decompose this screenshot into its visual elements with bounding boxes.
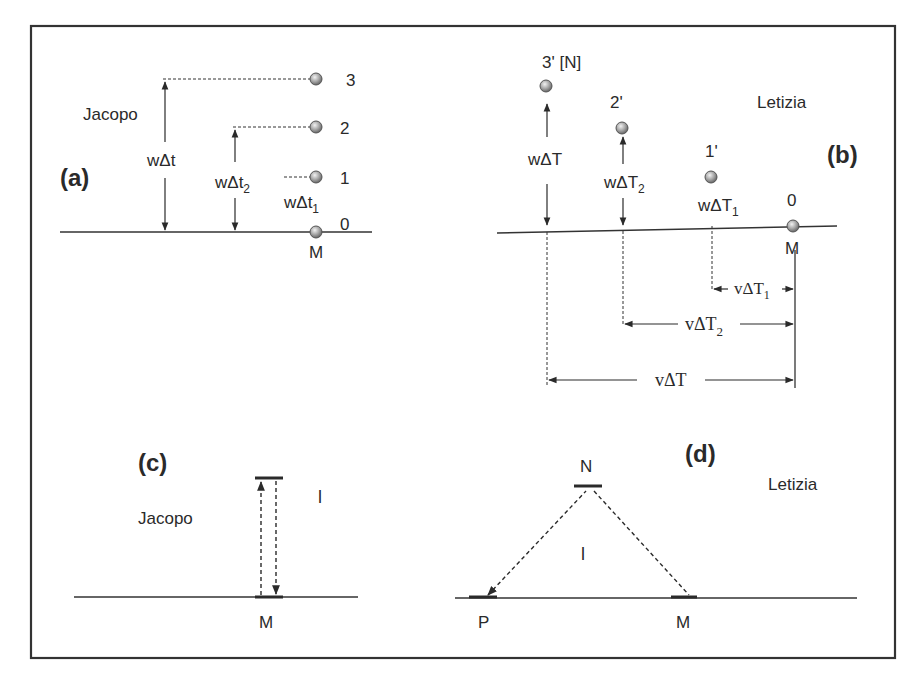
point-label-3prime: 3' [N] [542, 53, 581, 72]
panel-c: (c) Jacopo l M [74, 449, 358, 632]
v-interval-T1-label: wΔT1 [697, 196, 739, 219]
h-interval-T2-label: vΔT2 [685, 314, 723, 339]
sphere-2prime [616, 122, 628, 134]
light-path-down [594, 491, 689, 595]
interval-total-label: wΔt [146, 151, 176, 170]
point-label-3: 3 [346, 71, 355, 90]
panel-d: N (d) Letizia l P M [455, 440, 857, 632]
panel-b: 3' [N] 2' 1' 0 M Letizia (b) wΔT wΔT2 wΔ… [497, 53, 858, 390]
panel-tag-d: (d) [685, 440, 716, 467]
observer-label: Jacopo [83, 105, 138, 124]
sphere-1 [310, 171, 322, 183]
ground-line [497, 226, 837, 233]
base-label-m: M [785, 239, 799, 258]
sphere-3prime [540, 80, 552, 92]
v-interval-T2-label: wΔT2 [603, 173, 645, 196]
point-label-2prime: 2' [610, 93, 623, 112]
v-interval-total-label: wΔT [527, 150, 562, 169]
interval-t2-label: wΔt2 [214, 173, 250, 196]
point-label-2: 2 [340, 119, 349, 138]
path-length-label: l [318, 487, 322, 507]
point-label-0: 0 [787, 191, 796, 210]
h-interval-total-label: vΔT [655, 370, 687, 390]
light-clock-diagram: 3 2 1 0 M Jacopo (a) wΔt wΔt2 wΔt1 [0, 0, 921, 686]
point-label-1prime: 1' [705, 142, 718, 161]
point-label-0: 0 [340, 215, 349, 234]
base-label-m: M [309, 243, 323, 262]
point-label-1: 1 [340, 169, 349, 188]
sphere-2 [310, 121, 322, 133]
observer-label: Jacopo [138, 509, 193, 528]
sphere-1prime [705, 171, 717, 183]
base-label-m: M [259, 613, 273, 632]
figure-frame [31, 26, 895, 658]
path-length-label: l [581, 544, 585, 564]
sphere-0 [310, 226, 322, 238]
interval-t1-label: wΔt1 [283, 193, 319, 216]
right-label-m: M [676, 613, 690, 632]
apex-label-n: N [580, 457, 592, 476]
light-path-up [488, 491, 586, 595]
panel-a: 3 2 1 0 M Jacopo (a) wΔt wΔt2 wΔt1 [60, 71, 372, 262]
panel-tag-a: (a) [60, 164, 89, 191]
panel-tag-c: (c) [138, 449, 167, 476]
panel-tag-b: (b) [827, 141, 858, 168]
observer-label: Letizia [757, 93, 807, 112]
observer-label: Letizia [768, 475, 818, 494]
sphere-0 [787, 220, 799, 232]
sphere-3 [310, 73, 322, 85]
left-label-p: P [478, 613, 489, 632]
h-interval-T1-label: vΔT1 [734, 279, 770, 302]
